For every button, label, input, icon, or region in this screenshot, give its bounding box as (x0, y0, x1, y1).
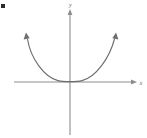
parabola-curve (28, 39, 115, 82)
parabola-figure: x y (0, 0, 147, 138)
parabola-curve-group (24, 33, 119, 82)
y-axis-group (68, 9, 73, 135)
corner-mark (1, 4, 5, 8)
y-axis-arrowhead-icon (68, 9, 73, 15)
y-axis-label: y (68, 1, 72, 8)
left-branch-arrowhead-icon (24, 33, 30, 40)
figure-canvas: x y (0, 0, 147, 138)
x-axis-label: x (139, 79, 143, 86)
right-branch-arrowhead-icon (112, 33, 118, 40)
x-axis-arrowhead-icon (131, 80, 137, 85)
